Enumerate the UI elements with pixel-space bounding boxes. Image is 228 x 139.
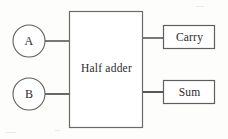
scan-speck [196,6,204,7]
output-label-carry: Carry [163,25,216,49]
diagram-canvas: A B Half adder Carry Sum [0,0,228,139]
output-label-sum: Sum [163,80,216,104]
half-adder-label: Half adder [69,58,144,78]
input-label-b: B [12,77,46,111]
input-label-a: A [12,24,46,58]
scan-speck [6,132,16,133]
scan-speck [55,130,60,131]
